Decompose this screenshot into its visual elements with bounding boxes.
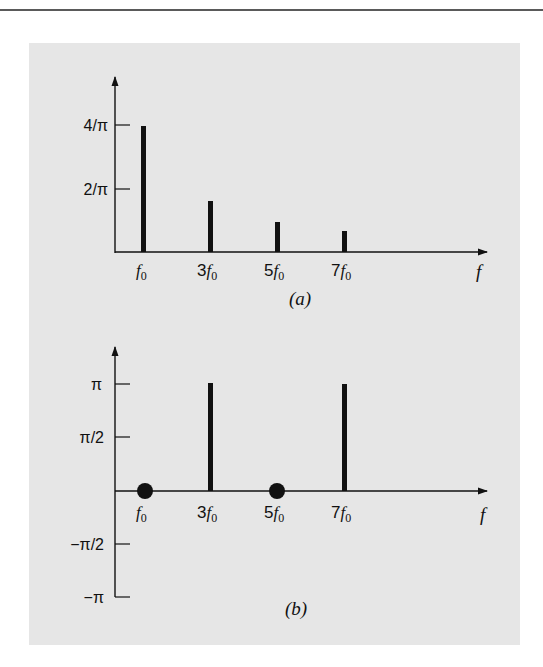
chart-b-dot-f0 — [137, 483, 153, 499]
chart-a-xlabel-5f0: 5f0 — [264, 261, 284, 283]
chart-b-ytick-label-neg-pi-half: −π/2 — [70, 536, 104, 553]
chart-b-xlabel-3f0: 3f0 — [197, 503, 217, 525]
chart-a-bar-3f0 — [208, 201, 213, 252]
chart-b-ytick-label-pi-half: π/2 — [80, 429, 104, 446]
chart-a: 4/π 2/π f0 3f0 5f0 7f0 f (a) — [84, 77, 487, 310]
chart-a-ytick-label-2-over-pi: 2/π — [84, 181, 108, 198]
chart-b-xlabel-f0: f0 — [136, 503, 147, 525]
chart-b: π π/2 −π/2 −π f0 3f0 5f0 7f0 f (b) — [70, 347, 488, 620]
chart-a-bar-5f0 — [275, 222, 280, 252]
chart-a-x-axis-label: f — [476, 261, 484, 282]
chart-b-bar-3f0 — [208, 383, 213, 491]
chart-a-bar-7f0 — [342, 231, 347, 252]
chart-a-xlabel-7f0: 7f0 — [331, 261, 351, 283]
chart-b-xlabel-5f0: 5f0 — [264, 503, 284, 525]
chart-a-ytick-label-4-over-pi: 4/π — [84, 117, 108, 134]
chart-b-ytick-label-pi: π — [91, 376, 102, 393]
chart-b-dot-5f0 — [269, 483, 285, 499]
chart-a-xlabel-f0: f0 — [136, 261, 147, 283]
chart-b-caption: (b) — [285, 598, 307, 620]
chart-a-caption: (a) — [289, 288, 311, 310]
chart-b-bar-7f0 — [342, 384, 347, 491]
chart-b-xlabel-7f0: 7f0 — [331, 503, 351, 525]
figure-svg: 4/π 2/π f0 3f0 5f0 7f0 f (a) π — [0, 0, 543, 667]
chart-a-xlabel-3f0: 3f0 — [197, 261, 217, 283]
chart-b-x-axis-label: f — [480, 504, 488, 525]
chart-b-ytick-label-neg-pi: −π — [84, 589, 104, 606]
chart-a-bar-f0 — [141, 126, 146, 252]
